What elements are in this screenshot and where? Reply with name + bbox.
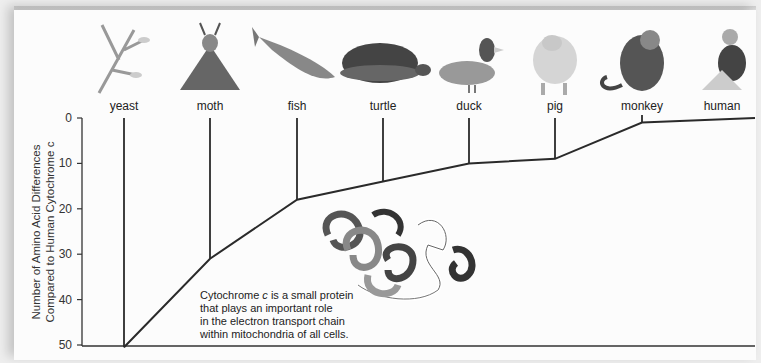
human-icon bbox=[702, 29, 746, 90]
organism-label-moth: moth bbox=[197, 99, 224, 113]
y-axis: 01020304050 Number of Amino Acid Differe… bbox=[30, 111, 82, 352]
duck-icon bbox=[439, 38, 504, 93]
y-tick-label: 30 bbox=[59, 247, 73, 261]
organism-label-duck: duck bbox=[456, 99, 482, 113]
organism-label-pig: pig bbox=[547, 99, 563, 113]
y-tick-label: 40 bbox=[59, 293, 73, 307]
y-axis-title-line1: Number of Amino Acid Differences bbox=[30, 144, 42, 319]
organism-label-yeast: yeast bbox=[110, 99, 139, 113]
y-tick-label: 20 bbox=[59, 202, 73, 216]
moth-icon bbox=[180, 23, 240, 90]
pig-icon bbox=[533, 35, 577, 95]
y-axis-title-line2: Compared to Human Cytochrome c bbox=[44, 141, 56, 322]
organism-label-fish: fish bbox=[288, 99, 307, 113]
monkey-icon bbox=[602, 30, 664, 91]
organism-label-turtle: turtle bbox=[370, 99, 397, 113]
organism-label-human: human bbox=[704, 99, 741, 113]
annotation-text: Cytochrome c is a small protein that pla… bbox=[200, 289, 420, 341]
fish-icon bbox=[252, 27, 335, 78]
y-tick-label: 10 bbox=[59, 156, 73, 170]
cytochrome-c-protein-icon bbox=[326, 212, 472, 299]
turtle-icon bbox=[340, 43, 431, 83]
y-tick-label: 50 bbox=[59, 338, 73, 352]
y-tick-label: 0 bbox=[65, 111, 72, 125]
organism-labels: yeastmothfishturtleduckpigmonkeyhuman bbox=[99, 23, 746, 113]
yeast-icon bbox=[99, 25, 150, 93]
organism-label-monkey: monkey bbox=[621, 99, 663, 113]
